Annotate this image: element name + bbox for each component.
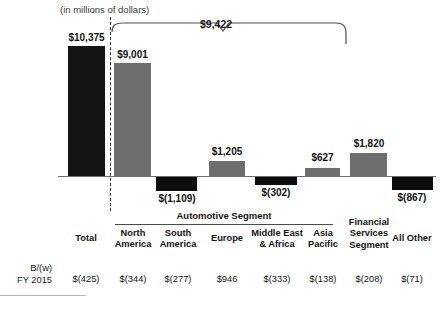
zero-baseline [58,176,436,177]
bar-total [68,46,105,176]
bar-all-other [392,177,433,190]
units-note: (in millions of dollars) [60,4,149,15]
row-label-bw-fy2015: B/(w) FY 2015 [2,262,52,286]
bar-label-europe: $1,205 [198,146,256,157]
bar-label-south-america: $(1,109) [145,193,209,204]
automotive-segment-title: Automotive Segment [115,210,333,221]
bar-south-america [156,177,197,191]
bar-asia-pacific [305,168,340,176]
value-all-other: $(71) [381,274,443,284]
bar-financial-services [350,153,387,176]
bracket-9422-label: $9,422 [200,18,232,30]
bar-chart: (in millions of dollars) $9,422 $10,375 … [0,0,444,319]
bar-label-total: $10,375 [56,32,117,43]
bar-label-all-other: $(867) [381,192,443,203]
automotive-segment-rule [115,224,333,225]
column-header-all-other: All Other [381,233,443,244]
footer-rule [0,295,86,296]
bracket-9422-icon [110,20,355,52]
bar-middle-east-africa [255,177,297,185]
bar-label-north-america: $9,001 [103,49,162,60]
bar-label-middle-east-africa: $(302) [246,187,306,198]
bar-north-america [114,63,151,176]
bar-europe [209,161,245,176]
bar-label-financial-services: $1,820 [340,138,398,149]
bar-label-asia-pacific: $627 [296,152,349,163]
